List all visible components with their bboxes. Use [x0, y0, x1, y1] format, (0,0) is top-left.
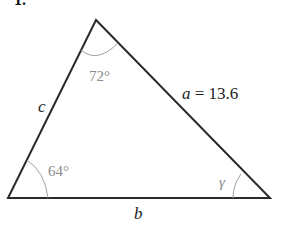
side-a-label: a = 13.6 [182, 84, 238, 103]
bottom-left-angle-label: 64° [48, 163, 69, 179]
bottom-right-angle-label: γ [219, 174, 226, 190]
bottom-right-angle-arc [233, 174, 241, 198]
side-a-var: a [182, 84, 191, 103]
side-b-label: b [134, 204, 143, 223]
top-angle-label: 72° [89, 68, 110, 84]
triangle-diagram: 72° 64° γ c a = 13.6 b [0, 0, 281, 229]
side-c-label: c [38, 97, 46, 116]
top-angle-arc [81, 43, 118, 56]
side-a-value: = 13.6 [191, 84, 239, 103]
bottom-left-angle-arc [27, 160, 48, 198]
